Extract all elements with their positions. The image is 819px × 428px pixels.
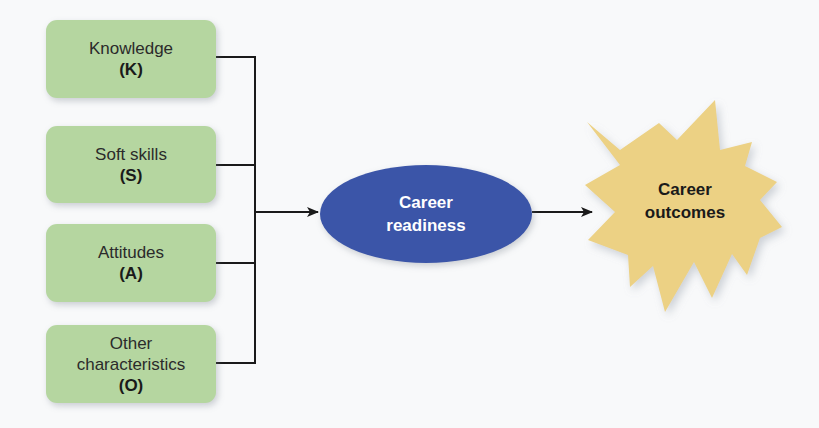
center-line1: Career xyxy=(399,191,453,214)
input-label: Attitudes xyxy=(98,242,164,263)
input-box-knowledge: Knowledge (K) xyxy=(46,20,216,98)
input-label: Soft skills xyxy=(95,144,167,165)
input-label-line2: characteristics xyxy=(77,354,186,375)
input-box-soft-skills: Soft skills (S) xyxy=(46,126,216,203)
input-abbr: (A) xyxy=(119,263,143,284)
input-abbr: (K) xyxy=(119,59,143,80)
input-abbr: (S) xyxy=(120,165,143,186)
center-line2: readiness xyxy=(386,214,465,237)
input-box-other-characteristics: Other characteristics (O) xyxy=(46,325,216,403)
input-box-attitudes: Attitudes (A) xyxy=(46,224,216,302)
career-outcomes-label: Career outcomes xyxy=(600,178,770,224)
outcome-line1: Career xyxy=(600,178,770,201)
input-label: Knowledge xyxy=(89,38,173,59)
input-abbr: (O) xyxy=(119,375,144,396)
input-label-line1: Other xyxy=(110,333,153,354)
outcome-line2: outcomes xyxy=(600,201,770,224)
career-readiness-ellipse: Career readiness xyxy=(320,165,532,263)
